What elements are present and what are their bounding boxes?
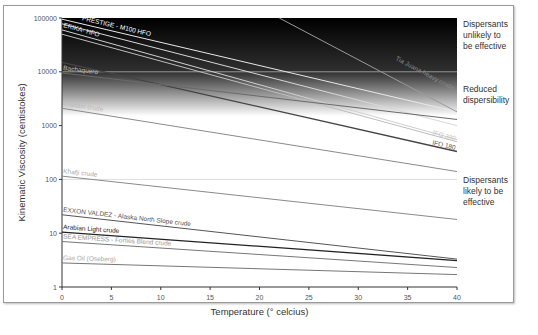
series-label: SEA EMPRESS - Forties Blend crude [63,233,172,247]
y-tick-label: 1 [53,284,57,291]
zone-line: likely to be [463,186,508,197]
zone-line: Dispersants [463,175,508,186]
zone-line: unlikely to [463,30,508,41]
x-tick-label: 0 [60,294,64,301]
x-tick-label: 30 [354,294,362,301]
y-axis-label: Kinematic Viscosity (centistokes) [16,83,27,221]
x-tick-label: 20 [256,294,264,301]
y-tick-label: 10 [49,230,57,237]
zone-label-likely: Dispersants likely to be effective [463,175,508,208]
series-line [62,263,457,275]
zone-label-unlikely: Dispersants unlikely to be effective [463,19,508,52]
x-tick-label: 35 [404,294,412,301]
zone-line: be effective [463,41,508,52]
zone-label-reduced: Reduced dispersibility [463,84,509,106]
series-label: Gas Oil (Oseberg) [63,254,116,264]
x-axis-label: Temperature (° celcius) [211,306,309,317]
x-tick-label: 10 [157,294,165,301]
y-tick-label: 1000 [41,122,57,129]
y-tick-label: 10000 [38,68,58,75]
x-tick-label: 25 [305,294,313,301]
y-tick-label: 100 [45,176,57,183]
zone-line: Dispersants [463,19,508,30]
x-tick-label: 15 [206,294,214,301]
x-tick-label: 40 [453,294,461,301]
viscosity-chart: 1101001000100001000000510152025303540Tem… [0,0,538,335]
zone-line: Reduced [463,84,509,95]
zone-line: effective [463,197,508,208]
series-line [62,108,457,171]
y-tick-label: 100000 [34,15,57,22]
zone-line: dispersibility [463,95,509,106]
series-line [62,242,457,268]
x-tick-label: 5 [109,294,113,301]
